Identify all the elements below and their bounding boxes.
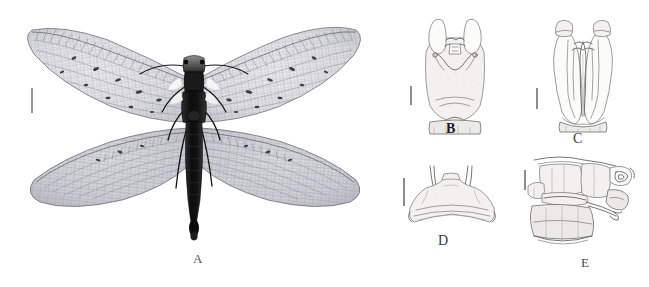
genitalia-ventral-drawing: [528, 8, 638, 138]
sternite-drawing: [396, 160, 511, 240]
scale-bar-a: [31, 88, 33, 113]
left-hindwing: [20, 120, 200, 220]
scale-bar-c: [536, 88, 538, 109]
panel-label-b: B: [446, 122, 455, 136]
panel-e: [518, 150, 643, 260]
terminalia-lateral-drawing: [518, 150, 643, 260]
panel-b: [400, 8, 510, 138]
panel-label-d: D: [438, 234, 448, 248]
habitus-illustration: [0, 0, 380, 287]
figure-plate: A: [0, 0, 649, 287]
left-forewing: [20, 20, 200, 130]
scale-bar-d: [403, 178, 405, 206]
genitalia-dorsal-drawing: [400, 8, 510, 138]
right-forewing: [190, 18, 380, 130]
scale-bar-b: [410, 86, 412, 105]
scale-bar-e: [524, 170, 526, 190]
panel-a: A: [0, 0, 380, 287]
panel-d: [396, 160, 511, 240]
panel-label-e: E: [581, 256, 589, 269]
panel-label-c: C: [573, 132, 582, 146]
panel-c: [528, 8, 638, 138]
panel-label-a: A: [193, 252, 202, 265]
